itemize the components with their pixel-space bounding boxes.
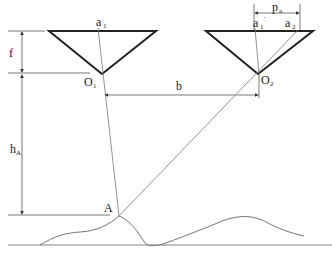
svg-text:a: a: [279, 7, 283, 15]
ray-a2-to-A: [119, 30, 298, 216]
svg-text:A: A: [16, 149, 21, 157]
svg-text:1: 1: [103, 22, 107, 30]
svg-text:1: 1: [93, 82, 97, 90]
svg-text:b: b: [176, 79, 182, 93]
label-pa: p a: [272, 0, 283, 15]
label-a2: a 2: [285, 16, 296, 31]
svg-text:O: O: [84, 75, 93, 89]
label-a1-prime: a 1 ': [253, 15, 265, 31]
label-A: A: [104, 201, 113, 215]
svg-text:p: p: [272, 0, 278, 14]
right-camera-triangle: [206, 31, 313, 74]
stereo-parallax-diagram: a 1 a 1 ' a 2 p a f O 1 O 2 b h A A: [0, 0, 332, 253]
ray-a1prime-to-O2: [255, 28, 259, 74]
svg-text:2: 2: [292, 23, 296, 31]
terrain-profile: [40, 216, 304, 246]
svg-text:a: a: [285, 16, 291, 30]
svg-text:f: f: [9, 46, 13, 60]
svg-text:': ': [264, 15, 265, 23]
svg-text:a: a: [253, 16, 259, 30]
label-O2: O 2: [261, 73, 274, 88]
ray-a1-to-A: [98, 28, 119, 216]
svg-text:a: a: [96, 15, 102, 29]
svg-text:A: A: [104, 201, 113, 215]
label-f: f: [9, 46, 13, 60]
svg-text:O: O: [261, 73, 270, 87]
label-hA: h A: [10, 142, 21, 157]
label-a1: a 1: [96, 15, 107, 30]
label-O1: O 1: [84, 75, 97, 90]
svg-text:1: 1: [260, 23, 264, 31]
svg-text:2: 2: [270, 80, 274, 88]
label-b: b: [176, 79, 182, 93]
